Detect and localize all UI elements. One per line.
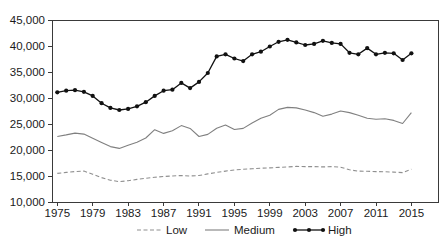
y-axis-tick-label: 10,000	[10, 196, 45, 208]
series-high-marker	[277, 40, 281, 44]
series-high-marker	[392, 51, 396, 55]
y-axis-tick-label: 40,000	[10, 40, 45, 52]
series-high-marker	[144, 100, 148, 104]
series-high-marker	[347, 51, 351, 55]
legend-marker-high	[307, 228, 311, 232]
series-high-marker	[232, 56, 236, 60]
y-axis-tick-label: 15,000	[10, 170, 45, 182]
x-axis-tick-label: 1995	[222, 207, 248, 219]
series-high-marker	[108, 106, 112, 110]
series-high-marker	[250, 52, 254, 56]
y-axis-tick-label: 45,000	[10, 14, 45, 26]
x-axis-tick-label: 1987	[151, 207, 177, 219]
series-high-marker	[374, 52, 378, 56]
series-high-marker	[126, 107, 130, 111]
legend-marker-high	[321, 228, 325, 232]
series-high-marker	[383, 51, 387, 55]
series-high-marker	[188, 86, 192, 90]
series-high-marker	[117, 108, 121, 112]
x-axis-tick-label: 1979	[80, 207, 106, 219]
series-high-marker	[82, 90, 86, 94]
legend-label-high: High	[328, 224, 352, 236]
y-axis-tick-label: 30,000	[10, 92, 45, 104]
series-high-marker	[330, 41, 334, 45]
series-high-marker	[162, 89, 166, 93]
series-high-marker	[135, 104, 139, 108]
x-axis-tick-label: 2007	[328, 207, 354, 219]
series-high-marker	[241, 59, 245, 63]
series-high-marker	[312, 42, 316, 46]
series-high-marker	[55, 90, 59, 94]
legend-item-medium: Medium	[205, 224, 275, 236]
series-high-marker	[64, 89, 68, 93]
legend-item-high: High	[293, 224, 352, 236]
legend-item-low: Low	[137, 224, 188, 236]
series-high-marker	[321, 39, 325, 43]
legend-marker-high	[293, 228, 297, 232]
series-high-marker	[170, 88, 174, 92]
series-high-marker	[268, 44, 272, 48]
y-axis-tick-label: 20,000	[10, 144, 45, 156]
legend-label-low: Low	[166, 224, 188, 236]
series-high-marker	[259, 50, 263, 54]
series-high-marker	[100, 101, 104, 105]
series-high-marker	[339, 42, 343, 46]
series-high-marker	[223, 52, 227, 56]
x-axis-tick-label: 2003	[292, 207, 318, 219]
x-axis-tick-label: 1975	[45, 207, 71, 219]
x-axis-tick-label: 2015	[399, 207, 425, 219]
series-high-marker	[179, 81, 183, 85]
series-high-marker	[356, 52, 360, 56]
series-high-marker	[153, 94, 157, 98]
y-axis-tick-label: 35,000	[10, 66, 45, 78]
chart-canvas: 10,00015,00020,00025,00030,00035,00040,0…	[0, 0, 442, 252]
series-medium-line	[57, 107, 411, 148]
x-axis-tick-label: 1999	[257, 207, 283, 219]
series-high-marker	[303, 43, 307, 47]
series-high-marker	[197, 80, 201, 84]
line-chart: 10,00015,00020,00025,00030,00035,00040,0…	[0, 0, 442, 252]
plot-border	[52, 20, 438, 202]
series-low-line	[57, 166, 411, 181]
series-high-line	[57, 40, 411, 110]
legend-label-medium: Medium	[234, 224, 275, 236]
x-axis-tick-label: 1983	[115, 207, 141, 219]
series-high-marker	[401, 58, 405, 62]
series-high-marker	[206, 71, 210, 75]
series-high-marker	[409, 51, 413, 55]
series-high-marker	[365, 46, 369, 50]
series-high-marker	[73, 88, 77, 92]
series-high-marker	[285, 38, 289, 42]
x-axis-tick-label: 1991	[186, 207, 212, 219]
series-high-marker	[91, 94, 95, 98]
x-axis-tick-label: 2011	[364, 207, 389, 219]
series-high-marker	[215, 54, 219, 58]
series-high-marker	[294, 40, 298, 44]
y-axis-tick-label: 25,000	[10, 118, 45, 130]
